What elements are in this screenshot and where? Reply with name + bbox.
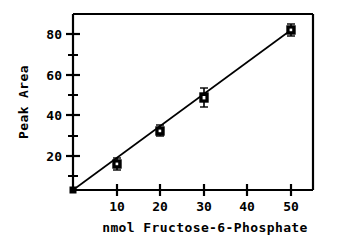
marker-0 bbox=[70, 187, 76, 193]
data-point-10 bbox=[113, 158, 121, 170]
x-tick-label-40: 40 bbox=[239, 199, 255, 214]
data-point-50 bbox=[287, 24, 295, 36]
chart-svg: 20 40 60 80 10 20 30 40 50 bbox=[0, 0, 338, 242]
marker-inner-10 bbox=[116, 163, 119, 166]
x-axis-title: nmol Fructose-6-Phosphate bbox=[102, 220, 308, 235]
y-tick-label-40: 40 bbox=[46, 108, 62, 123]
x-tick-label-50: 50 bbox=[283, 199, 299, 214]
x-tick-label-30: 30 bbox=[196, 199, 212, 214]
y-tick-label-20: 20 bbox=[46, 149, 62, 164]
x-tick-label-10: 10 bbox=[109, 199, 125, 214]
chart-figure: 20 40 60 80 10 20 30 40 50 bbox=[0, 0, 338, 242]
marker-inner-30 bbox=[203, 96, 206, 99]
y-tick-label-80: 80 bbox=[46, 27, 62, 42]
marker-inner-50 bbox=[290, 29, 293, 32]
marker-inner-20 bbox=[159, 130, 162, 133]
data-point-0 bbox=[70, 187, 76, 193]
y-axis-title: Peak Area bbox=[16, 65, 31, 139]
y-tick-label-60: 60 bbox=[46, 68, 62, 83]
x-tick-label-20: 20 bbox=[152, 199, 168, 214]
data-point-20 bbox=[156, 125, 164, 136]
